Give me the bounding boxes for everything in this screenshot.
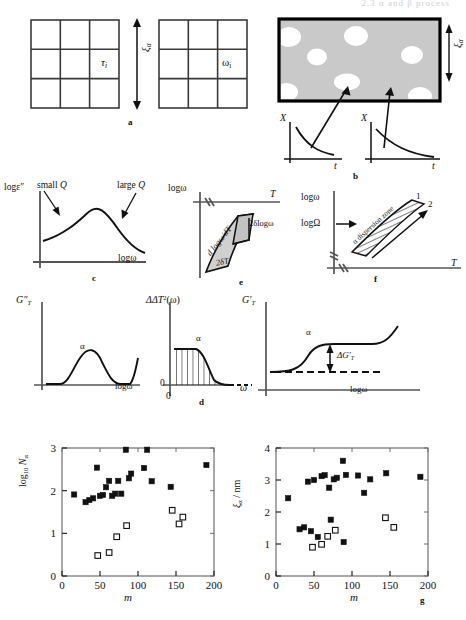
x-tick-label: 150 — [382, 579, 399, 591]
data-point — [100, 492, 105, 497]
data-point — [332, 527, 338, 533]
y-tick-label: 2 — [51, 485, 57, 497]
plot-frame — [62, 448, 214, 576]
data-point — [328, 517, 333, 522]
data-point — [325, 534, 331, 540]
data-point — [141, 465, 146, 470]
data-point — [204, 462, 209, 467]
y-tick-label: 4 — [265, 442, 271, 454]
y-tick-label: 1 — [265, 538, 271, 550]
series-filled-squares — [286, 458, 423, 544]
data-point — [91, 496, 96, 501]
scatter-right-ylabel: ξα / nm — [232, 480, 243, 508]
data-point — [311, 477, 316, 482]
data-point — [384, 471, 389, 476]
x-tick-label: 0 — [273, 579, 279, 591]
x-tick-label: 50 — [95, 579, 107, 591]
data-point — [355, 473, 360, 478]
panel-letter-g: g — [420, 596, 425, 605]
data-point — [145, 447, 150, 452]
data-point — [103, 485, 108, 490]
y-tick-label: 3 — [265, 474, 271, 486]
data-point — [391, 525, 397, 531]
data-point — [123, 447, 128, 452]
data-point — [418, 474, 423, 479]
scatter-left-xlabel: m — [124, 592, 132, 603]
data-point — [129, 471, 134, 476]
data-point — [107, 478, 112, 483]
data-point — [114, 534, 120, 540]
figure-root: 2.3 α and β process τi ωi — [0, 0, 466, 620]
data-point — [322, 473, 327, 478]
data-point — [286, 496, 291, 501]
data-point — [334, 475, 339, 480]
data-point — [113, 491, 118, 496]
data-point — [315, 534, 320, 539]
y-tick-label: 3 — [51, 442, 57, 454]
data-point — [362, 490, 367, 495]
series-filled-squares — [72, 447, 209, 505]
y-tick-label: 2 — [265, 506, 271, 518]
scatter-plot-left: 0501001502000123 — [51, 442, 223, 591]
data-point — [149, 479, 154, 484]
data-point — [327, 485, 332, 490]
data-point — [340, 458, 345, 463]
x-tick-label: 200 — [420, 579, 437, 591]
data-point — [124, 523, 130, 529]
data-point — [94, 465, 99, 470]
data-point — [106, 550, 112, 556]
data-point — [305, 479, 310, 484]
data-point — [310, 544, 316, 550]
data-point — [302, 525, 307, 530]
x-tick-label: 100 — [130, 579, 147, 591]
scatter-plot-right: 05010015020001234 — [265, 442, 437, 591]
series-open-squares — [95, 507, 186, 558]
data-point — [176, 521, 182, 527]
y-tick-label: 0 — [51, 570, 57, 582]
y-tick-label: 0 — [265, 570, 271, 582]
x-tick-label: 200 — [206, 579, 223, 591]
x-tick-label: 0 — [59, 579, 65, 591]
data-point — [168, 484, 173, 489]
data-point — [319, 542, 325, 548]
x-tick-label: 100 — [344, 579, 361, 591]
data-point — [383, 515, 389, 521]
data-point — [119, 491, 124, 496]
scatter-right-xlabel: m — [350, 592, 358, 603]
data-point — [169, 507, 175, 513]
data-point — [368, 477, 373, 482]
data-point — [180, 514, 186, 520]
scatter-left-ylabel: log10 Nα — [18, 455, 29, 487]
plot-frame — [276, 448, 428, 576]
data-point — [116, 478, 121, 483]
x-tick-label: 150 — [168, 579, 185, 591]
data-point — [341, 539, 346, 544]
data-point — [343, 472, 348, 477]
y-tick-label: 1 — [51, 527, 57, 539]
panel-g-scatter-graphics: 050100150200012305010015020001234 — [0, 0, 466, 620]
x-tick-label: 50 — [309, 579, 321, 591]
data-point — [72, 492, 77, 497]
data-point — [95, 553, 101, 559]
series-open-squares — [310, 515, 397, 550]
data-point — [308, 529, 313, 534]
